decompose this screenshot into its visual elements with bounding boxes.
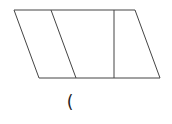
parallelogram-outline xyxy=(14,10,160,78)
slanted-divider-line xyxy=(51,10,76,78)
diagram-canvas: ( xyxy=(0,0,172,124)
parallelogram-diagram xyxy=(0,0,172,124)
caption-label: ( xyxy=(60,92,80,112)
